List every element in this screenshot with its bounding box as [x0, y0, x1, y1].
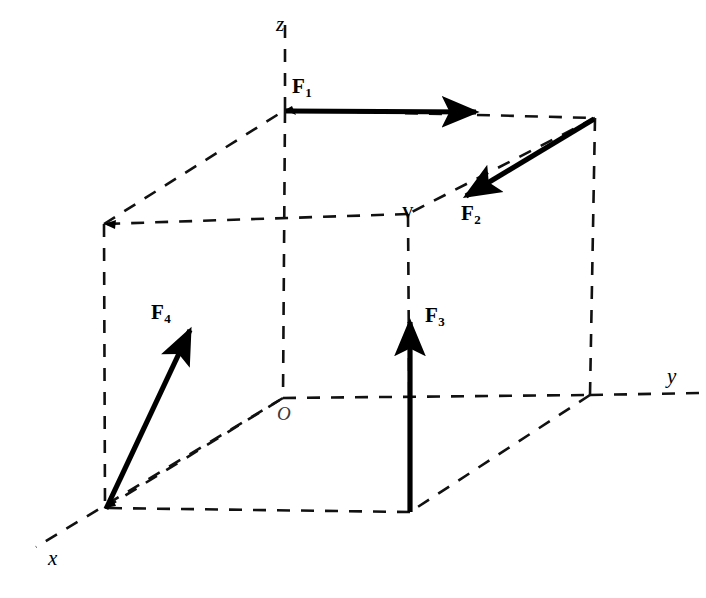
cube-edge-top-back [104, 110, 285, 224]
axis-y [590, 393, 700, 395]
axis-label-y: y [667, 366, 676, 387]
vertex-label-v: V [402, 205, 414, 221]
force-vector-f2 [466, 119, 594, 196]
cube-edge-bottom-front-left [105, 508, 410, 512]
cube-edge-bottom-front-right [410, 395, 590, 512]
vector-diagram-figure: F1 F2 F3 F4 z y x O V [0, 0, 706, 598]
axis-label-z: z [276, 14, 284, 35]
force-label-f1: F1 [292, 76, 312, 99]
cube-edge-vertical-back-right [283, 110, 285, 398]
force-vector-f1 [286, 111, 476, 112]
axis-x [36, 398, 283, 547]
force-label-f4: F4 [151, 302, 171, 325]
axis-label-x: x [48, 548, 57, 569]
diagram-canvas [0, 0, 706, 598]
force-label-f2: F2 [461, 203, 481, 226]
cube-edge-vertical-front-right [590, 118, 595, 395]
cube-edge-top-front-left [104, 214, 408, 224]
cube-edge-bottom-right [283, 395, 590, 398]
force-label-f3: F3 [425, 305, 445, 328]
cube-edge-vertical-back-left [104, 224, 105, 508]
origin-label: O [277, 404, 291, 423]
